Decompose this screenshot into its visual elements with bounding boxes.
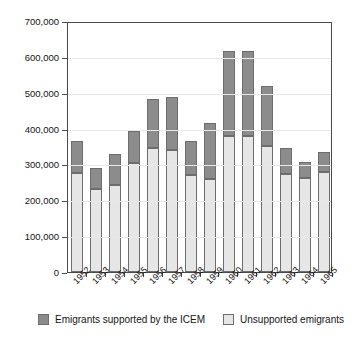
y-axis-tick-label: 400,000 — [25, 125, 59, 135]
bar-group[interactable] — [318, 152, 330, 272]
gridline — [68, 130, 332, 131]
legend-item-unsupported: Unsupported emigrants — [223, 314, 344, 325]
bar-segment-unsupported — [280, 174, 292, 272]
bar-segment-supported — [71, 141, 83, 173]
bar-segment-unsupported — [109, 185, 121, 272]
stacked-bar-chart: 0100,000200,000300,000400,000500,000600,… — [0, 0, 352, 338]
bar-group[interactable] — [166, 97, 178, 272]
bar-segment-unsupported — [204, 179, 216, 272]
bar-segment-unsupported — [242, 136, 254, 272]
bar-segment-unsupported — [223, 136, 235, 272]
gridline — [68, 201, 332, 202]
bar-group[interactable] — [299, 162, 311, 272]
bar-segment-supported — [185, 141, 197, 175]
bar-segment-supported — [109, 154, 121, 184]
legend-swatch-supported — [38, 314, 49, 325]
bar-segment-supported — [90, 168, 102, 189]
gridline — [68, 165, 332, 166]
legend-label-supported: Emigrants supported by the ICEM — [55, 314, 205, 325]
plot-frame-top — [67, 22, 332, 23]
gridline — [68, 94, 332, 95]
y-axis-tick-label: 500,000 — [25, 89, 59, 99]
bar-segment-supported — [318, 152, 330, 172]
bar-group[interactable] — [261, 86, 273, 272]
legend-label-unsupported: Unsupported emigrants — [240, 314, 344, 325]
bar-segment-supported — [166, 97, 178, 150]
bar-segment-unsupported — [128, 163, 140, 272]
y-axis-tick-label: 0 — [54, 268, 59, 278]
bar-segment-unsupported — [71, 173, 83, 272]
y-axis-tick-label: 100,000 — [25, 232, 59, 242]
chart-legend: Emigrants supported by the ICEM Unsuppor… — [38, 309, 338, 329]
bar-group[interactable] — [109, 154, 121, 272]
bar-group[interactable] — [204, 122, 216, 272]
bar-segment-unsupported — [299, 178, 311, 272]
legend-item-supported: Emigrants supported by the ICEM — [38, 314, 205, 325]
bar-group[interactable] — [71, 141, 83, 272]
y-axis-labels: 0100,000200,000300,000400,000500,000600,… — [0, 22, 67, 273]
bar-segment-unsupported — [318, 172, 330, 272]
y-axis-tick-label: 600,000 — [25, 53, 59, 63]
gridline — [68, 58, 332, 59]
bar-group[interactable] — [280, 148, 292, 272]
bar-segment-unsupported — [185, 175, 197, 272]
bar-group[interactable] — [90, 168, 102, 272]
bar-group[interactable] — [147, 99, 159, 272]
plot-frame-right — [331, 22, 332, 273]
bar-group[interactable] — [242, 51, 254, 272]
bar-segment-unsupported — [147, 148, 159, 272]
bar-segment-supported — [280, 148, 292, 173]
bar-series-container — [68, 22, 332, 272]
y-axis-tick-label: 200,000 — [25, 196, 59, 206]
legend-swatch-unsupported — [223, 314, 234, 325]
bar-segment-supported — [204, 123, 216, 180]
y-axis-tick-label: 300,000 — [25, 160, 59, 170]
bar-segment-supported — [147, 99, 159, 148]
bar-group[interactable] — [223, 51, 235, 272]
y-axis-tick-label: 700,000 — [25, 17, 59, 27]
bar-segment-supported — [128, 131, 140, 164]
bar-segment-unsupported — [166, 150, 178, 272]
plot-area — [67, 22, 332, 273]
bar-group[interactable] — [185, 141, 197, 272]
gridline — [68, 237, 332, 238]
